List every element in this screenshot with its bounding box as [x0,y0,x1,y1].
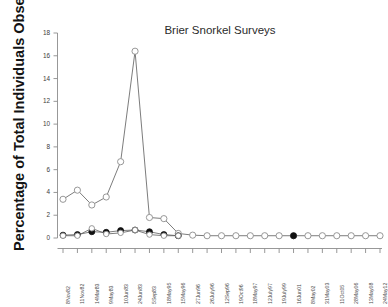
data-point-marker [161,233,166,238]
data-point-marker [204,233,210,239]
data-point-marker [146,214,152,220]
data-point-marker [60,196,66,202]
data-point-marker [233,233,239,239]
data-point-marker [218,233,224,239]
data-point-marker [132,48,138,54]
data-point-marker [362,233,368,239]
data-point-marker [276,233,282,239]
data-point-marker [377,233,383,239]
data-point-marker [176,233,181,238]
data-point-marker [74,187,80,193]
data-point-marker [118,230,123,235]
data-point-marker [305,233,311,239]
data-point-marker [75,233,80,238]
axes [54,33,383,253]
data-point-marker [291,233,297,239]
data-point-marker [161,216,167,222]
data-point-marker [103,194,109,200]
data-point-marker [348,233,354,239]
data-point-marker [147,232,152,237]
data-point-marker [190,232,196,238]
data-point-marker [319,233,325,239]
series-open-circle-series [60,48,383,239]
data-point-marker [60,233,65,238]
data-point-marker [334,233,340,239]
data-point-marker [89,202,95,208]
data-point-marker [89,226,94,231]
series-line [63,51,380,236]
data-point-marker [132,227,137,232]
data-point-marker [262,233,268,239]
data-point-marker [104,231,109,236]
data-point-marker [118,159,124,165]
data-series-layer [60,48,383,239]
data-point-marker [247,233,253,239]
